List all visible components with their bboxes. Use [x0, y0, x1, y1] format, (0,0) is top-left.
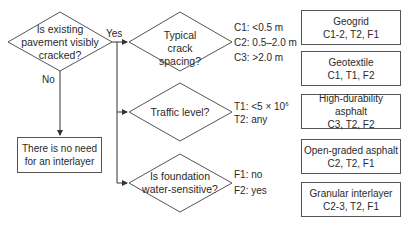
- yes-label: Yes: [106, 28, 122, 40]
- decision-traffic: Traffic level?: [140, 106, 220, 119]
- option-high-durability-asphalt: High-durability asphalt C3, T2, F2: [301, 94, 401, 129]
- option-granular-interlayer: Granular interlayer C2-3, T2, F1: [301, 182, 401, 217]
- text-line: cracked?: [20, 49, 100, 62]
- option-codes: C2-3, T2, F1: [323, 200, 379, 213]
- option-open-graded-asphalt: Open-graded asphalt C2, T2, F1: [301, 139, 401, 174]
- option-codes: C3, T2, F2: [327, 118, 374, 131]
- option-codes: C1, T1, F2: [327, 69, 374, 82]
- foundation-f2: F2: yes: [234, 185, 267, 197]
- text-line: water-sensitive?: [135, 183, 225, 196]
- text-line: for an interlayer: [25, 155, 94, 168]
- decision-crack-spacing: Typical crack spacing?: [150, 29, 210, 68]
- text-line: Is foundation: [135, 170, 225, 183]
- traffic-t2: T2: any: [234, 114, 267, 126]
- traffic-t1: T1: <5 × 106: [234, 98, 289, 113]
- option-name: High-durability asphalt: [302, 92, 400, 118]
- option-codes: C1-2, T2, F1: [323, 28, 379, 41]
- decision-foundation: Is foundation water-sensitive?: [135, 170, 225, 196]
- foundation-f1: F1: no: [234, 169, 262, 181]
- no-interlayer-box: There is no need for an interlayer: [17, 137, 102, 173]
- text-line: Is existing: [20, 23, 100, 36]
- option-name: Geogrid: [333, 15, 369, 28]
- decision-cracked: Is existing pavement visibly cracked?: [20, 23, 100, 62]
- option-codes: C2, T2, F1: [327, 157, 374, 170]
- option-name: Granular interlayer: [310, 187, 393, 200]
- option-name: Geotextile: [328, 56, 373, 69]
- text-line: pavement visibly: [20, 36, 100, 49]
- crack-c3: C3: >2.0 m: [234, 52, 283, 64]
- option-name: Open-graded asphalt: [304, 144, 398, 157]
- t1-exponent: 6: [285, 101, 288, 107]
- crack-c2: C2: 0.5–2.0 m: [234, 37, 297, 49]
- option-geogrid: Geogrid C1-2, T2, F1: [301, 10, 401, 45]
- crack-c1: C1: <0.5 m: [234, 22, 283, 34]
- option-geotextile: Geotextile C1, T1, F2: [301, 51, 401, 86]
- no-label: No: [42, 74, 55, 86]
- text-line: There is no need: [22, 142, 97, 155]
- t1-text: T1: <5 × 10: [234, 101, 285, 112]
